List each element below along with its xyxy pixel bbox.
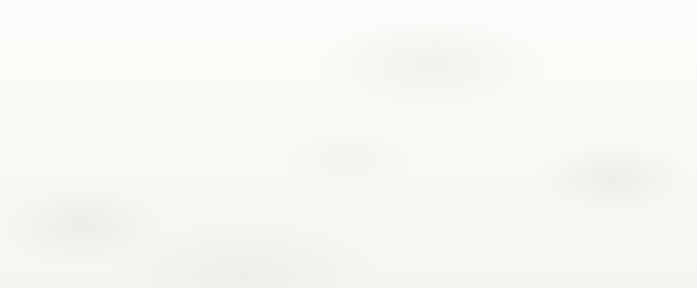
y-tick-label: 0 (28, 238, 80, 257)
data-point-label: 242 (333, 57, 362, 76)
data-point-label: 239 (488, 59, 517, 78)
line-chart: T/MW 350300250200150100500 320242239174 … (0, 0, 697, 288)
y-tick-label: 300 (28, 37, 80, 56)
data-point-label: 320 (176, 5, 205, 24)
y-tick-mark (84, 247, 90, 248)
x-tick-label: 2010 (117, 256, 207, 275)
y-tick-label: 350 (28, 4, 80, 23)
y-tick-label: 250 (28, 71, 80, 90)
y-tick-label: 50 (28, 205, 80, 224)
x-tick-label: 2011 (270, 256, 360, 275)
y-tick-label: 100 (28, 171, 80, 190)
y-tick-label: 200 (28, 104, 80, 123)
x-tick-label: 2013 (575, 256, 665, 275)
plot-area: 320242239174 (89, 13, 697, 247)
y-tick-label: 150 (28, 138, 80, 157)
series-line (89, 13, 697, 247)
x-axis-tick-labels: 2010201120122013 (89, 256, 697, 284)
data-point-label: 174 (634, 125, 663, 144)
y-axis-tick-labels: 350300250200150100500 (24, 0, 80, 288)
x-tick-label: 2012 (425, 256, 515, 275)
